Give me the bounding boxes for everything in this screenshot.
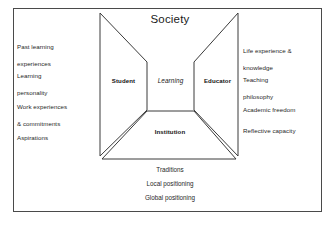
left-annotation-2: Learning personality	[17, 64, 103, 97]
right-annotation-2: Teaching philosophy	[243, 68, 329, 101]
left-annotation-4-line1: Aspirations	[17, 134, 48, 141]
right-annotation-3: Academic freedom	[243, 98, 329, 114]
bottom-annotation-3: Global positioning	[80, 194, 260, 201]
bottom-annotation-2: Local positioning	[80, 180, 260, 187]
left-annotation-4: Aspirations	[17, 126, 103, 142]
student-label: Student	[100, 77, 147, 84]
figure-root: Society Student Learning Educator Instit…	[0, 0, 335, 229]
bottom-annotation-1: Traditions	[80, 166, 260, 173]
right-annotation-4-line1: Reflective capacity	[243, 127, 296, 134]
right-annotation-1: Life experience & knowledge	[243, 39, 329, 72]
left-annotation-1-line1: Past learning	[17, 43, 54, 50]
society-title: Society	[120, 13, 220, 25]
right-annotation-4: Reflective capacity	[243, 119, 329, 135]
diagram-text-layer: Society Student Learning Educator Instit…	[0, 0, 335, 229]
educator-label: Educator	[194, 77, 241, 84]
right-annotation-1-line1: Life experience &	[243, 47, 292, 54]
left-annotation-3: Work experiences & commitments	[17, 95, 103, 128]
right-annotation-3-line1: Academic freedom	[243, 106, 295, 113]
institution-label: Institution	[140, 128, 200, 135]
left-annotation-1: Past learning experiences	[17, 35, 103, 68]
left-annotation-3-line1: Work experiences	[17, 103, 67, 110]
left-annotation-2-line1: Learning	[17, 72, 41, 79]
right-annotation-2-line1: Teaching	[243, 76, 268, 83]
learning-label: Learning	[147, 77, 194, 84]
